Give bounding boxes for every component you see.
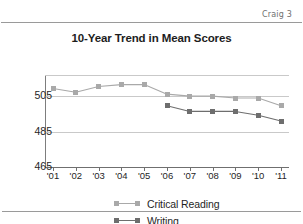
legend-item-critical-reading: Critical Reading [0,195,303,212]
page-header-label: Craig 3 [262,10,292,19]
data-point-critical-reading-04 [119,82,124,87]
footer-divider-rule [2,211,301,212]
x-tick-label-10: '11 [268,170,294,181]
data-point-critical-reading-01 [51,86,56,91]
footer-ghost-text [4,214,299,223]
data-point-critical-reading-10 [256,96,261,101]
data-point-critical-reading-11 [279,103,284,108]
series-lines [45,75,289,167]
data-point-writing-09 [233,109,238,114]
data-point-critical-reading-02 [73,90,78,95]
data-point-critical-reading-06 [165,92,170,97]
legend-swatch-critical-reading [114,200,140,207]
legend-marker-left-critical-reading [114,201,119,206]
data-point-critical-reading-07 [187,94,192,99]
chart-figure: 10-Year Trend in Mean Scores 505 485 465… [0,23,303,211]
data-point-critical-reading-09 [233,96,238,101]
data-point-writing-11 [279,119,284,124]
page-header: Craig 3 [0,0,303,20]
data-point-critical-reading-03 [96,84,101,89]
data-point-writing-06 [165,103,170,108]
legend-marker-right-critical-reading [135,201,140,206]
data-point-writing-10 [256,113,261,118]
data-point-writing-07 [187,109,192,114]
series-line-writing [167,106,281,121]
data-point-writing-08 [210,109,215,114]
data-point-critical-reading-05 [142,82,147,87]
chart-title: 10-Year Trend in Mean Scores [0,32,303,44]
legend-label-critical-reading: Critical Reading [147,198,220,210]
data-point-critical-reading-08 [210,94,215,99]
